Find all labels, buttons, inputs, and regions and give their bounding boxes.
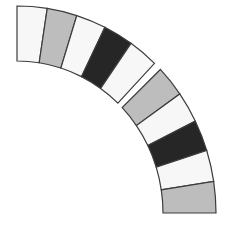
striped-arc — [0, 0, 232, 225]
lower-group — [122, 69, 216, 213]
arc-diagram — [0, 0, 232, 225]
upper-group — [17, 6, 154, 103]
